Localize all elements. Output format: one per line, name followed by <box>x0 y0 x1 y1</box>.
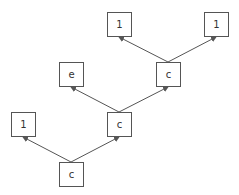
node-one-left: 1 <box>11 112 36 137</box>
node-root-c: c <box>59 162 84 187</box>
edge-root-to-one-left <box>23 137 71 162</box>
edge-c-mid-to-e <box>71 87 119 112</box>
node-e: e <box>59 62 84 87</box>
node-one-b: 1 <box>204 12 229 37</box>
edge-root-to-c-mid <box>71 137 119 162</box>
edge-c-mid-to-c-top <box>119 87 168 112</box>
edge-c-top-to-one-b <box>168 37 216 62</box>
node-c-mid: c <box>107 112 132 137</box>
node-one-a: 1 <box>107 12 132 37</box>
edge-c-top-to-one-a <box>119 37 168 62</box>
node-c-top: c <box>156 62 181 87</box>
